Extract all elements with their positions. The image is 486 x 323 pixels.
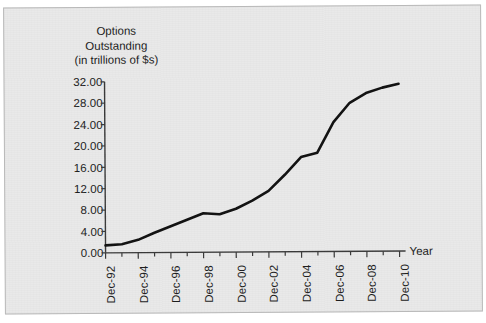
plot-area — [4, 6, 484, 316]
chart-figure: Options Outstanding (in trillions of $s)… — [4, 6, 482, 314]
scanned-page: Options Outstanding (in trillions of $s)… — [3, 5, 483, 315]
data-line-options-outstanding — [105, 84, 400, 246]
axes — [101, 80, 406, 259]
